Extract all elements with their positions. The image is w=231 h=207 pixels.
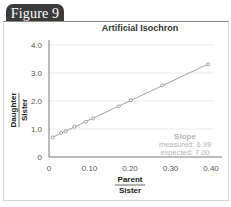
x-label-numerator: Parent <box>118 175 143 184</box>
x-label-denominator: Sister <box>119 186 141 195</box>
y-tick-label: 1.0 <box>31 125 43 134</box>
x-axis-label: Parent Sister <box>115 175 145 195</box>
data-point <box>60 131 63 134</box>
x-tick-label: 0.20 <box>122 164 138 173</box>
data-point <box>73 125 76 128</box>
data-point <box>129 99 132 102</box>
y-tick-label: 4.0 <box>31 41 43 50</box>
data-point <box>84 120 87 123</box>
x-tick-label: 0.10 <box>82 164 98 173</box>
y-axis-label: Daughter Sister <box>9 92 29 127</box>
data-point <box>51 136 54 139</box>
slope-expected: expected: 7.00 <box>160 148 209 157</box>
x-tick-label: 0.40 <box>203 164 219 173</box>
y-label-numerator: Daughter <box>9 92 18 127</box>
y-tick-label: 0 <box>38 153 43 162</box>
y-tick-label: 3.0 <box>31 69 43 78</box>
data-point <box>161 84 164 87</box>
data-point <box>207 63 210 66</box>
x-tick-label: 0 <box>47 164 52 173</box>
y-label-denominator: Sister <box>20 99 29 121</box>
y-tick-label: 2.0 <box>31 97 43 106</box>
data-point <box>92 117 95 120</box>
x-tick-label: 0.30 <box>163 164 179 173</box>
data-point <box>117 105 120 108</box>
gridlines <box>49 45 214 129</box>
isochron-chart: 01.02.03.04.000.100.200.300.40 Slope mea… <box>0 0 231 207</box>
data-point <box>64 130 67 133</box>
slope-annotation: Slope measured: 6.99 expected: 7.00 <box>159 132 211 157</box>
